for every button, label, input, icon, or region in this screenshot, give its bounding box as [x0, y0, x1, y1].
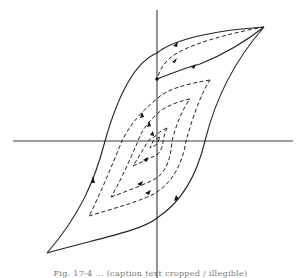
recoil-curve [155, 27, 264, 81]
figure-caption: Fig. 17-4 ... (caption text cropped / il… [0, 269, 301, 278]
arrow-icon [140, 112, 144, 118]
outer-loop [47, 27, 264, 253]
hysteresis-diagram [0, 0, 301, 278]
minor-loop-4 [150, 137, 160, 148]
remanence-point [155, 77, 159, 81]
arrow-icon [145, 190, 151, 195]
arrow-icon [143, 157, 148, 162]
arrow-icon [147, 121, 151, 127]
arrow-icon [91, 176, 95, 183]
arrow-icon [150, 131, 154, 136]
arrow-icon [174, 195, 179, 201]
arrow-icon [172, 58, 177, 63]
